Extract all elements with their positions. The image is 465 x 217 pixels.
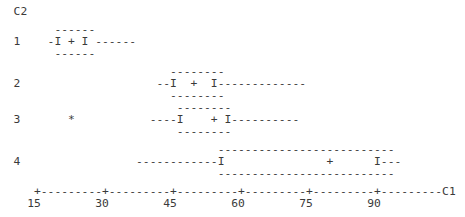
box-bottom-edge-1: ------ xyxy=(0,48,95,60)
y-axis-label: C2 xyxy=(0,6,27,18)
boxplot-chart: C2 ------ 1 -I + I ------ ------ -------… xyxy=(0,0,465,217)
box-bottom-edge-3: -------- xyxy=(0,126,231,138)
x-axis-tick-labels: 15 30 45 60 75 90 xyxy=(0,198,381,210)
box-bottom-edge-4: -------------------------- xyxy=(0,168,394,180)
